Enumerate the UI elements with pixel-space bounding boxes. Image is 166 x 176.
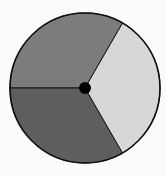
spinner-center-pivot [79, 82, 91, 94]
spinner-diagram [0, 0, 166, 176]
